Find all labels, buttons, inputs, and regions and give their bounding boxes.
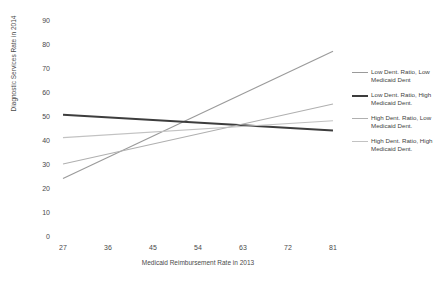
y-axis-tick-label: 90 <box>42 17 50 24</box>
legend-entry: Low Dent. Ratio, High Medicaid Dent. <box>352 91 446 107</box>
y-axis-tick-label: 40 <box>42 137 50 144</box>
y-axis-tick-label: 70 <box>42 65 50 72</box>
legend-line-swatch-icon <box>352 118 368 119</box>
plot-area <box>63 20 333 236</box>
legend-entry-label: Low Dent. Ratio, High Medicaid Dent. <box>371 91 443 107</box>
series-line-1 <box>63 115 333 131</box>
legend-entry-label: High Dent. Ratio, High Medicaid Dent. <box>371 137 443 153</box>
y-axis-tick-label: 50 <box>42 113 50 120</box>
y-axis-tick-label: 60 <box>42 89 50 96</box>
x-axis-tick-label: 45 <box>149 244 157 252</box>
series-line-0 <box>63 51 333 178</box>
x-axis-tick-label: 54 <box>194 244 202 252</box>
legend-entry: Low Dent. Ratio, Low Medicaid Dent <box>352 68 446 84</box>
legend-entry-label: High Dent. Ratio, Low Medicaid Dent. <box>371 114 443 130</box>
x-axis-tick-label: 81 <box>329 244 337 252</box>
legend-entry: High Dent. Ratio, High Medicaid Dent. <box>352 137 446 153</box>
x-axis-tick-label: 72 <box>284 244 292 252</box>
x-axis-title: Medicaid Reimbursement Rate in 2013 <box>63 259 333 267</box>
y-axis-tick-label: 10 <box>42 209 50 216</box>
x-axis-tick-label: 36 <box>104 244 112 252</box>
legend-entry-label: Low Dent. Ratio, Low Medicaid Dent <box>371 68 443 84</box>
legend-line-swatch-icon <box>352 95 368 97</box>
x-axis-tick-label: 63 <box>239 244 247 252</box>
x-axis-tick-label: 27 <box>59 244 67 252</box>
y-axis-title: Diagnostic Services Rate in 2014 <box>10 0 17 139</box>
y-axis-tick-label: 80 <box>42 41 50 48</box>
y-axis-tick-label: 20 <box>42 185 50 192</box>
plot-lines <box>63 20 333 236</box>
y-axis-tick-label: 30 <box>42 161 50 168</box>
legend-entry: High Dent. Ratio, Low Medicaid Dent. <box>352 114 446 130</box>
series-line-2 <box>63 104 333 164</box>
legend-line-swatch-icon <box>352 141 368 142</box>
chart-legend: Low Dent. Ratio, Low Medicaid DentLow De… <box>352 68 446 160</box>
interaction-line-chart: 0102030405060708090 Diagnostic Services … <box>0 0 446 286</box>
legend-line-swatch-icon <box>352 72 368 73</box>
y-axis-tick-label: 0 <box>46 233 50 240</box>
x-axis-tick-labels: 27364554637281 <box>63 244 333 256</box>
